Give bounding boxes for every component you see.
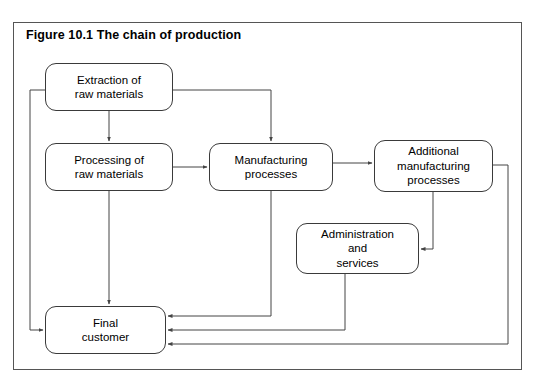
- node-extraction-of-raw-materials[interactable]: Extraction of raw materials: [45, 63, 173, 111]
- node-label: Additional manufacturing processes: [393, 144, 474, 188]
- node-label: Extraction of raw materials: [71, 73, 147, 102]
- node-administration-and-services[interactable]: Administration and services: [296, 223, 419, 274]
- connector-manufacturing-final: [168, 191, 271, 316]
- node-additional-manufacturing-processes[interactable]: Additional manufacturing processes: [374, 140, 493, 192]
- connector-extraction-manufacturing: [173, 90, 271, 141]
- node-manufacturing-processes[interactable]: Manufacturing processes: [209, 143, 333, 191]
- figure-root: Figure 10.1 The chain of production: [0, 0, 535, 381]
- connector-administration-final: [168, 274, 345, 330]
- node-label: Final customer: [78, 316, 133, 345]
- connector-additional-administration: [421, 192, 433, 249]
- node-final-customer[interactable]: Final customer: [45, 306, 166, 354]
- node-label: Administration and services: [317, 227, 398, 271]
- node-label: Manufacturing processes: [231, 153, 312, 182]
- connector-extraction-final: [30, 90, 45, 330]
- node-processing-of-raw-materials[interactable]: Processing of raw materials: [45, 143, 173, 191]
- node-label: Processing of raw materials: [70, 153, 148, 182]
